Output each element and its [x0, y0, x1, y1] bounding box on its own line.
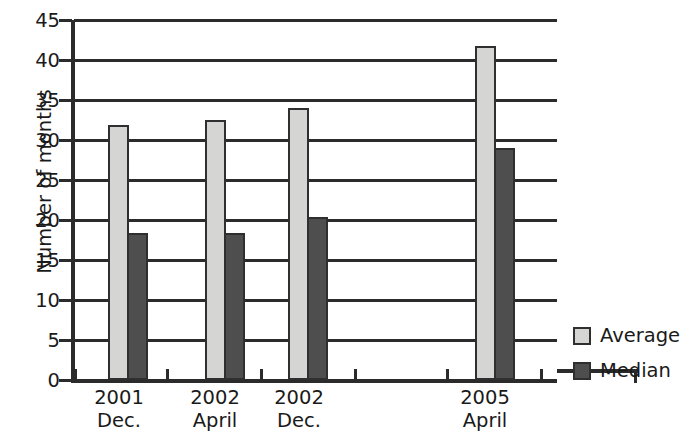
legend-item-average[interactable]: Average — [573, 318, 695, 353]
x-axis-tick-mark — [446, 369, 449, 383]
y-axis-line — [71, 20, 75, 380]
x-axis-tick-mark — [74, 369, 77, 383]
y-axis-tick-mark — [59, 19, 72, 22]
y-axis-tick-label: 30 — [20, 129, 60, 152]
y-axis-tick-label: 20 — [20, 209, 60, 232]
category-label-year: 2001 — [94, 386, 144, 409]
y-axis-tick-mark — [59, 299, 72, 302]
y-axis-tick-mark — [59, 179, 72, 182]
bar-median — [494, 148, 515, 380]
category-label-month: April — [435, 409, 535, 432]
bar-group — [74, 20, 557, 380]
plot-area — [74, 20, 557, 380]
y-axis-tick-label: 25 — [20, 169, 60, 192]
x-axis-tick-mark — [354, 369, 357, 383]
legend-label: Median — [600, 359, 671, 382]
bar-chart: Number of months 051015202530354045 2001… — [0, 0, 695, 444]
category-label-year: 2002 — [190, 386, 240, 409]
y-axis-tick-mark — [59, 259, 72, 262]
legend-swatch-average — [573, 327, 591, 345]
legend-label: Average — [600, 324, 680, 347]
y-axis-tick-mark — [59, 219, 72, 222]
x-axis-tick-mark — [260, 369, 263, 383]
chart-legend: AverageMedian — [573, 318, 695, 388]
y-axis-tick-mark — [59, 139, 72, 142]
y-axis-tick-mark — [59, 339, 72, 342]
category-label-month: Dec. — [69, 409, 169, 432]
y-axis-tick-labels: 051015202530354045 — [14, 0, 60, 444]
category-label-year: 2005 — [460, 386, 510, 409]
x-axis-tick-marks — [74, 369, 634, 385]
y-axis-tick-label: 5 — [20, 329, 60, 352]
y-axis-tick-label: 10 — [20, 289, 60, 312]
y-axis-tick-mark — [59, 99, 72, 102]
y-axis-tick-label: 45 — [20, 9, 60, 32]
y-axis-tick-label: 35 — [20, 89, 60, 112]
legend-item-median[interactable]: Median — [573, 353, 695, 388]
x-axis-category-label: 2001Dec. — [69, 386, 169, 432]
category-label-month: Dec. — [249, 409, 349, 432]
y-axis-tick-label: 15 — [20, 249, 60, 272]
category-label-year: 2002 — [274, 386, 324, 409]
x-axis-tick-mark — [540, 369, 543, 383]
x-axis-category-label: 2005April — [435, 386, 535, 432]
x-axis-tick-mark — [166, 369, 169, 383]
bar-average — [475, 46, 496, 380]
y-axis-tick-label: 0 — [20, 369, 60, 392]
x-axis-category-label: 2002Dec. — [249, 386, 349, 432]
legend-swatch-median — [573, 362, 591, 380]
y-axis-tick-label: 40 — [20, 49, 60, 72]
y-axis-tick-mark — [59, 59, 72, 62]
